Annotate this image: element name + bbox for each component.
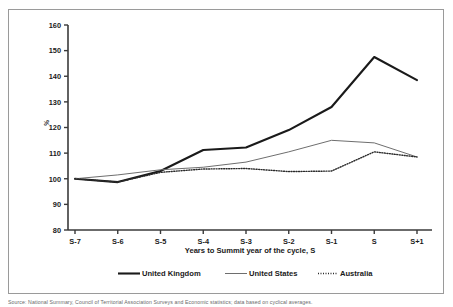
figure-caption: Source: National Summary, Council of Ter… <box>8 299 448 306</box>
y-tick-label: 100 <box>49 175 61 184</box>
y-tick-label: 150 <box>49 46 61 55</box>
y-tick-label: 90 <box>53 200 61 209</box>
y-tick-label: 110 <box>49 149 61 158</box>
legend-label-australia[interactable]: Australia <box>340 269 373 278</box>
legend-label-united-kingdom[interactable]: United Kingdom <box>142 269 201 278</box>
x-tick-label: S-4 <box>197 237 209 246</box>
x-axis-title: Years to Summit year of the cycle, S <box>185 246 315 255</box>
x-tick-label: S-3 <box>240 237 252 246</box>
series-line-australia <box>75 152 417 182</box>
series-line-united-kingdom <box>75 57 417 182</box>
figure-container: 8090100110120130140150160 S-7S-6S-5S-4S-… <box>0 0 453 307</box>
x-tick-label: S-2 <box>283 237 295 246</box>
x-tick-label: S-6 <box>112 237 124 246</box>
legend-label-united-states[interactable]: United States <box>249 269 298 278</box>
chart-legend: United KingdomUnited StatesAustralia <box>118 269 373 278</box>
series-lines <box>75 57 417 182</box>
line-chart: 8090100110120130140150160 S-7S-6S-5S-4S-… <box>0 0 453 307</box>
y-tick-label: 80 <box>53 226 61 235</box>
series-line-united-states <box>75 140 417 178</box>
x-tick-label: S+1 <box>410 237 423 246</box>
x-tick-label: S-7 <box>69 237 81 246</box>
x-axis: S-7S-6S-5S-4S-3S-2S-1SS+1 <box>68 230 432 246</box>
y-tick-label: 120 <box>49 123 61 132</box>
y-axis-title: % <box>43 120 50 126</box>
y-axis: 8090100110120130140150160 <box>49 21 68 235</box>
x-tick-label: S <box>372 237 377 246</box>
x-tick-label: S-1 <box>326 237 338 246</box>
x-tick-label: S-5 <box>155 237 167 246</box>
y-tick-label: 160 <box>49 21 61 30</box>
y-tick-label: 130 <box>49 98 61 107</box>
y-tick-label: 140 <box>49 72 61 81</box>
